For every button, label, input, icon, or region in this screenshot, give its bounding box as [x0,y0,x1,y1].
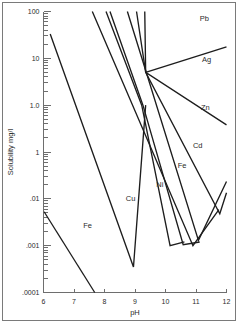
series-label-ni: Ni [156,180,163,189]
y-axis-title: Solubility mg/l [6,129,15,176]
y-tick-label: .001 [26,242,40,249]
chart-plot-area: 100101.01.01.001.00016789101112pHSolubil… [0,0,238,323]
series-label-fe: Fe [83,221,92,230]
curve-fe2 [92,12,219,246]
series-label-cd: Cd [193,141,203,150]
curve-cu [50,34,145,267]
x-tick-label: 10 [162,298,170,305]
y-tick-label: 1.0 [30,102,40,109]
y-tick-label: .0001 [22,289,40,296]
x-tick-label: 7 [72,298,76,305]
x-tick-label: 12 [223,298,231,305]
x-tick-label: 9 [133,298,137,305]
series-label-pb: Pb [200,14,209,23]
x-tick-label: 11 [192,298,199,305]
series-label-zn: Zn [201,103,210,112]
curve-pb [137,12,227,125]
series-label-fe: Fe [178,161,187,170]
x-tick-label: 6 [42,298,46,305]
y-tick-label: 100 [28,8,40,15]
solubility-chart-figure: 100101.01.01.001.00016789101112pHSolubil… [0,0,238,323]
y-tick-label: .01 [30,195,40,202]
x-tick-label: 8 [103,298,107,305]
y-tick-label: 1 [36,149,40,156]
series-label-ag: Ag [202,55,211,64]
curve-ni2 [110,12,200,245]
x-axis-title: pH [130,308,140,317]
series-label-cu: Cu [126,194,136,203]
y-tick-label: 10 [32,55,40,62]
curve-ag [146,47,227,72]
